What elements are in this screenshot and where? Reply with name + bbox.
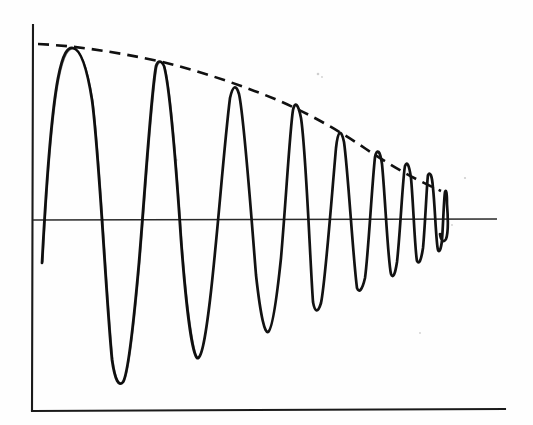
plot-canvas xyxy=(0,0,533,425)
y-axis-line xyxy=(32,25,33,410)
damped-oscillation-figure xyxy=(0,0,533,425)
plot-background xyxy=(0,0,533,425)
